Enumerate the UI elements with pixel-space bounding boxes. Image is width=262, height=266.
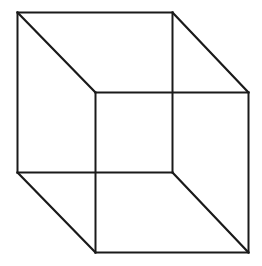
top-right-connector [173, 13, 249, 93]
bottom-right-connector [173, 173, 249, 253]
necker-cube-diagram [0, 0, 262, 266]
connecting-edges [18, 13, 249, 253]
top-left-connector [18, 13, 96, 93]
bottom-left-connector [18, 173, 96, 253]
